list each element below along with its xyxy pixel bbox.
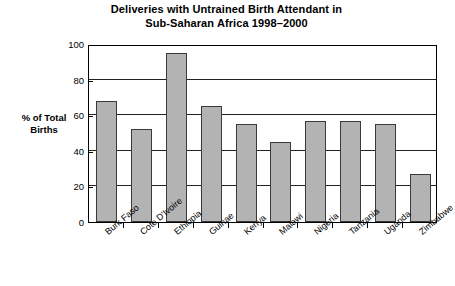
x-tick-mark bbox=[193, 223, 194, 228]
y-tick-label: 40 bbox=[58, 147, 84, 157]
y-tick-mark bbox=[88, 116, 93, 117]
bar bbox=[270, 142, 291, 222]
x-tick-mark bbox=[123, 223, 124, 228]
bar bbox=[340, 121, 361, 222]
x-tick-mark bbox=[367, 223, 368, 228]
x-tick-mark bbox=[332, 223, 333, 228]
y-tick-mark bbox=[88, 187, 93, 188]
chart-title: Deliveries with Untrained Birth Attendan… bbox=[0, 2, 453, 30]
x-tick-mark bbox=[228, 223, 229, 228]
bar bbox=[410, 174, 431, 222]
x-tick-mark bbox=[402, 223, 403, 228]
y-tick-label: 20 bbox=[58, 182, 84, 192]
gridline bbox=[89, 79, 436, 80]
chart-title-line-1: Deliveries with Untrained Birth Attendan… bbox=[0, 2, 453, 16]
x-tick-mark bbox=[297, 223, 298, 228]
y-tick-label: 60 bbox=[58, 111, 84, 121]
y-tick-label: 100 bbox=[58, 40, 84, 50]
y-tick-mark bbox=[88, 152, 93, 153]
bar bbox=[305, 121, 326, 222]
x-axis-tick-labels: Burk FasoCote D'IvoireEthiopiaGuinaeKeny… bbox=[0, 223, 453, 286]
y-tick-label: 80 bbox=[58, 76, 84, 86]
bar bbox=[96, 101, 117, 222]
bar bbox=[375, 124, 396, 222]
bar bbox=[236, 124, 257, 222]
x-tick-mark bbox=[158, 223, 159, 228]
x-tick-mark bbox=[263, 223, 264, 228]
y-axis-tick-labels: 020406080100 bbox=[54, 45, 84, 223]
y-tick-mark bbox=[88, 81, 93, 82]
bar bbox=[201, 106, 222, 222]
plot-area bbox=[88, 45, 437, 223]
gridline bbox=[89, 114, 436, 115]
chart-title-line-2: Sub-Saharan Africa 1998–2000 bbox=[0, 16, 453, 30]
